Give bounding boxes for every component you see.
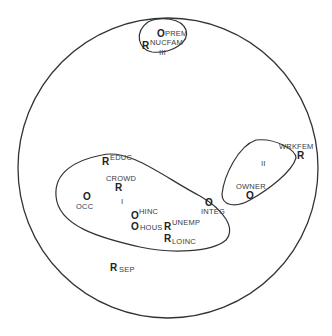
point-label-occ: OCC — [76, 203, 93, 211]
diagram-canvas — [0, 0, 332, 336]
point-label-integ: INTEG — [201, 208, 225, 216]
point-label-educ: EDUC — [110, 154, 132, 162]
point-symbol: R — [110, 263, 117, 273]
point-label-unemp: UNEMP — [172, 219, 200, 227]
point-symbol: R — [142, 41, 149, 51]
point-label-hous: HOUS — [140, 224, 162, 232]
point-symbol: O — [83, 192, 91, 202]
point-symbol: R — [115, 183, 122, 193]
point-symbol: R — [102, 157, 109, 167]
point-label-loinc: LOINC — [172, 238, 196, 246]
point-symbol: R — [164, 234, 171, 244]
point-symbol: R — [164, 222, 171, 232]
point-label-hinc: HINC — [139, 208, 158, 216]
region-label-iii: III — [159, 49, 166, 57]
point-label-prem: PREM — [165, 30, 187, 38]
point-symbol: O — [246, 191, 254, 201]
point-symbol: R — [297, 151, 304, 161]
region-label-i: I — [121, 198, 123, 206]
point-label-sep: SEP — [119, 266, 135, 274]
outer-circle — [18, 18, 318, 318]
point-label-nucfam: NUCFAM — [150, 39, 183, 47]
point-symbol: O — [131, 222, 139, 232]
region-label-ii: II — [261, 160, 265, 168]
point-symbol: O — [131, 211, 139, 221]
